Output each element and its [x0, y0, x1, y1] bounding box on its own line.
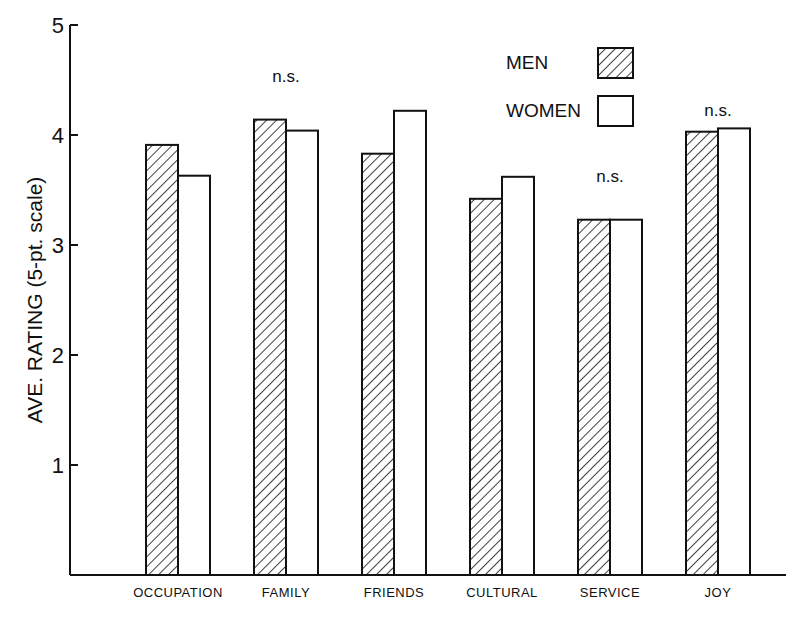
ns-annotation: n.s. [596, 167, 623, 186]
bars [146, 111, 750, 575]
ns-annotation: n.s. [704, 101, 731, 120]
category-labels: OCCUPATIONFAMILYFRIENDSCULTURALSERVICEJO… [133, 585, 731, 600]
y-tick-label: 2 [52, 343, 64, 368]
legend-label-women: WOMEN [506, 100, 581, 121]
y-tick-label: 3 [52, 233, 64, 258]
legend-swatch-men [598, 48, 633, 78]
bar-men-occupation [146, 145, 178, 575]
x-tick-label: CULTURAL [466, 585, 538, 600]
legend-swatch-women [598, 96, 633, 126]
bar-women-occupation [178, 176, 210, 575]
x-tick-label: JOY [705, 585, 732, 600]
x-tick-label: FAMILY [262, 585, 310, 600]
legend-label-men: MEN [506, 52, 548, 73]
bar-men-cultural [470, 199, 502, 575]
ns-annotation: n.s. [272, 67, 299, 86]
bar-men-friends [362, 154, 394, 575]
y-tick-label: 4 [52, 123, 64, 148]
bar-chart: 12345 OCCUPATIONFAMILYFRIENDSCULTURALSER… [0, 0, 808, 620]
bar-women-cultural [502, 177, 534, 575]
bar-women-family [286, 131, 318, 575]
bar-men-family [254, 120, 286, 575]
y-axis-label: AVE. RATING (5-pt. scale) [23, 177, 46, 424]
x-tick-label: OCCUPATION [133, 585, 223, 600]
y-tick-label: 1 [52, 453, 64, 478]
legend: MENWOMEN [506, 48, 633, 126]
x-tick-label: SERVICE [580, 585, 640, 600]
bar-women-service [610, 220, 642, 575]
bar-men-service [578, 220, 610, 575]
bar-women-friends [394, 111, 426, 575]
x-tick-label: FRIENDS [364, 585, 425, 600]
bar-women-joy [718, 128, 750, 575]
y-tick-label: 5 [52, 13, 64, 38]
annotations: n.s.n.s.n.s. [272, 67, 731, 186]
bar-men-joy [686, 132, 718, 575]
